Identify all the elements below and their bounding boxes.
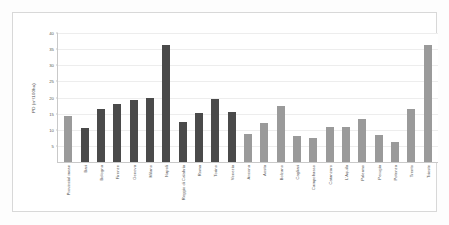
bar: [342, 127, 350, 162]
bar-slot: Aosta: [256, 33, 272, 162]
x-tick-label: Trento: [409, 165, 414, 177]
bar: [293, 136, 301, 162]
bar-slot: Torino: [207, 33, 223, 162]
y-tick-label: 5: [52, 143, 54, 148]
bar-slot: Bolzano: [272, 33, 288, 162]
bar-series: Provincial meanBariBolognaFirenzeGenovaM…: [58, 33, 438, 162]
bar: [326, 127, 334, 162]
bar-slot: Bologna: [93, 33, 109, 162]
bar: [64, 116, 72, 162]
bar: [97, 109, 105, 162]
bar-slot: Genova: [125, 33, 141, 162]
bar-slot: Milano: [142, 33, 158, 162]
figure-frame: PD (n°/100ha) 510152025303540 Provincial…: [12, 12, 437, 212]
bar-slot: Trieste: [420, 33, 436, 162]
y-tick-label: 10: [49, 127, 54, 132]
x-tick-label: Cagliari: [294, 165, 299, 180]
x-tick-label: Firenze: [115, 165, 120, 179]
x-tick-label: Roma: [196, 165, 201, 176]
x-tick-label: Bologna: [98, 165, 103, 181]
x-tick-label: Provincial mean: [66, 165, 71, 195]
bar: [81, 128, 89, 163]
x-tick-label: Ancona: [245, 165, 250, 179]
bar: [162, 45, 170, 162]
bar-slot: Cagliari: [289, 33, 305, 162]
bar-slot: Trento: [403, 33, 419, 162]
y-tick-label: 20: [49, 95, 54, 100]
bar: [277, 106, 285, 162]
plot-area: 510152025303540 Provincial meanBariBolog…: [57, 33, 438, 163]
bar: [179, 122, 187, 162]
x-tick-label: Catanzaro: [327, 165, 332, 185]
x-tick-label: Reggio di Calabria: [180, 165, 185, 200]
bar: [375, 135, 383, 162]
x-tick-label: Bari: [82, 165, 87, 173]
x-tick-label: Venezia: [229, 165, 234, 180]
bar-slot: Provincial mean: [60, 33, 76, 162]
y-tick-label: 40: [49, 31, 54, 36]
x-tick-label: Perugia: [376, 165, 381, 180]
bar: [113, 104, 121, 162]
bar-slot: Palermo: [354, 33, 370, 162]
y-tick-label: 30: [49, 63, 54, 68]
y-tick-label: 15: [49, 111, 54, 116]
x-tick-label: Milano: [147, 165, 152, 178]
bar-slot: Reggio di Calabria: [174, 33, 190, 162]
x-tick-label: L'Aquila: [344, 165, 349, 180]
bar: [358, 119, 366, 162]
x-tick-label: Campobasso: [311, 165, 316, 190]
bar-slot: Ancona: [240, 33, 256, 162]
bar-slot: Potenza: [387, 33, 403, 162]
bar-slot: Catanzaro: [322, 33, 338, 162]
bar-slot: Firenze: [109, 33, 125, 162]
bar-slot: Perugia: [371, 33, 387, 162]
bar: [260, 123, 268, 162]
y-tick-label: 25: [49, 79, 54, 84]
x-tick-label: Torino: [213, 165, 218, 177]
bar-slot: Bari: [76, 33, 92, 162]
bar-slot: Venezia: [223, 33, 239, 162]
bar: [391, 142, 399, 162]
y-tick-label: 35: [49, 47, 54, 52]
bar-slot: Napoli: [158, 33, 174, 162]
x-tick-label: Napoli: [164, 165, 169, 177]
bar: [424, 45, 432, 162]
bar-slot: Campobasso: [305, 33, 321, 162]
bar-slot: Roma: [191, 33, 207, 162]
x-tick-label: Trieste: [425, 165, 430, 178]
bar: [146, 98, 154, 163]
bar: [195, 113, 203, 162]
bar: [211, 99, 219, 162]
bar-slot: L'Aquila: [338, 33, 354, 162]
x-tick-label: Potenza: [393, 165, 398, 181]
bar: [309, 138, 317, 162]
chart-screenshot: PD (n°/100ha) 510152025303540 Provincial…: [0, 0, 449, 225]
bar: [130, 100, 138, 162]
y-axis-label: PD (n°/100ha): [31, 83, 36, 113]
x-tick-label: Genova: [131, 165, 136, 180]
bar: [228, 112, 236, 162]
x-tick-label: Aosta: [262, 165, 267, 176]
bar: [244, 134, 252, 162]
bar: [407, 109, 415, 162]
x-tick-label: Bolzano: [278, 165, 283, 180]
x-tick-label: Palermo: [360, 165, 365, 181]
